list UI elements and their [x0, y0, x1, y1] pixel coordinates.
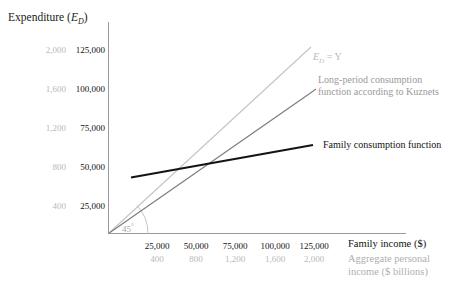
y-tick-primary-50000: 50,000	[80, 162, 105, 172]
angle-annotation-45: 45°	[122, 222, 134, 234]
y-tick-secondary-2000: 2,000	[46, 45, 66, 55]
y-tick-primary-75000: 75,000	[80, 123, 105, 133]
leader-line-kuznets	[309, 89, 316, 94]
chart-figure: Expenditure (ED) 125,000 100,000 75,000 …	[0, 0, 476, 290]
series-label-family-consumption: Family consumption function	[323, 139, 441, 151]
y-axis-title-text: Expenditure (	[8, 11, 71, 23]
x-tick-primary-125000: 125,000	[299, 241, 328, 251]
x-tick-secondary-2000: 2,000	[304, 254, 324, 264]
degree-symbol: °	[131, 222, 134, 230]
y-axis-title-symbol: E	[71, 11, 78, 23]
y-tick-primary-125000: 125,000	[76, 45, 105, 55]
y-tick-secondary-800: 800	[53, 162, 67, 172]
series-line-family-consumption	[131, 145, 313, 178]
x-tick-primary-25000: 25,000	[145, 241, 170, 251]
series-line-ed-equals-y	[109, 47, 312, 234]
x-tick-primary-50000: 50,000	[184, 241, 209, 251]
y-tick-primary-25000: 25,000	[80, 201, 105, 211]
series-label-ed-equals-y: ED = Y	[313, 39, 342, 66]
x-tick-primary-100000: 100,000	[260, 241, 289, 251]
angle-value: 45	[122, 224, 131, 234]
y-tick-secondary-400: 400	[53, 201, 67, 211]
x-tick-secondary-400: 400	[150, 254, 164, 264]
x-axis-caption-primary: Family income ($)	[348, 238, 426, 249]
y-tick-secondary-1200: 1,200	[46, 123, 66, 133]
y-axis-title: Expenditure (ED)	[8, 11, 88, 26]
y-tick-primary-100000: 100,000	[76, 84, 105, 94]
y-axis-title-paren: )	[84, 11, 88, 23]
x-tick-secondary-1600: 1,600	[265, 254, 285, 264]
x-tick-secondary-800: 800	[189, 254, 203, 264]
series-label-ed-equation: = Y	[324, 51, 342, 62]
x-axis-caption-secondary: Aggregate personal income ($ billions)	[348, 252, 430, 278]
y-tick-secondary-1600: 1,600	[46, 84, 66, 94]
series-label-kuznets: Long-period consumption function accordi…	[318, 74, 439, 98]
x-tick-secondary-1200: 1,200	[225, 254, 245, 264]
x-tick-primary-75000: 75,000	[223, 241, 248, 251]
